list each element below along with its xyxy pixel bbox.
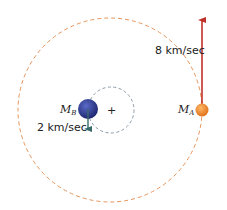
speed-label-a: 8 km/sec <box>155 44 205 57</box>
binary-orbit-diagram: + MB 2 km/sec MA 8 km/sec <box>0 0 227 210</box>
center-of-mass-marker: + <box>107 104 116 117</box>
label-mb: MB <box>59 103 76 117</box>
label-ma: MA <box>177 103 194 117</box>
body-a <box>196 104 209 117</box>
speed-label-b: 2 km/sec <box>37 121 87 134</box>
